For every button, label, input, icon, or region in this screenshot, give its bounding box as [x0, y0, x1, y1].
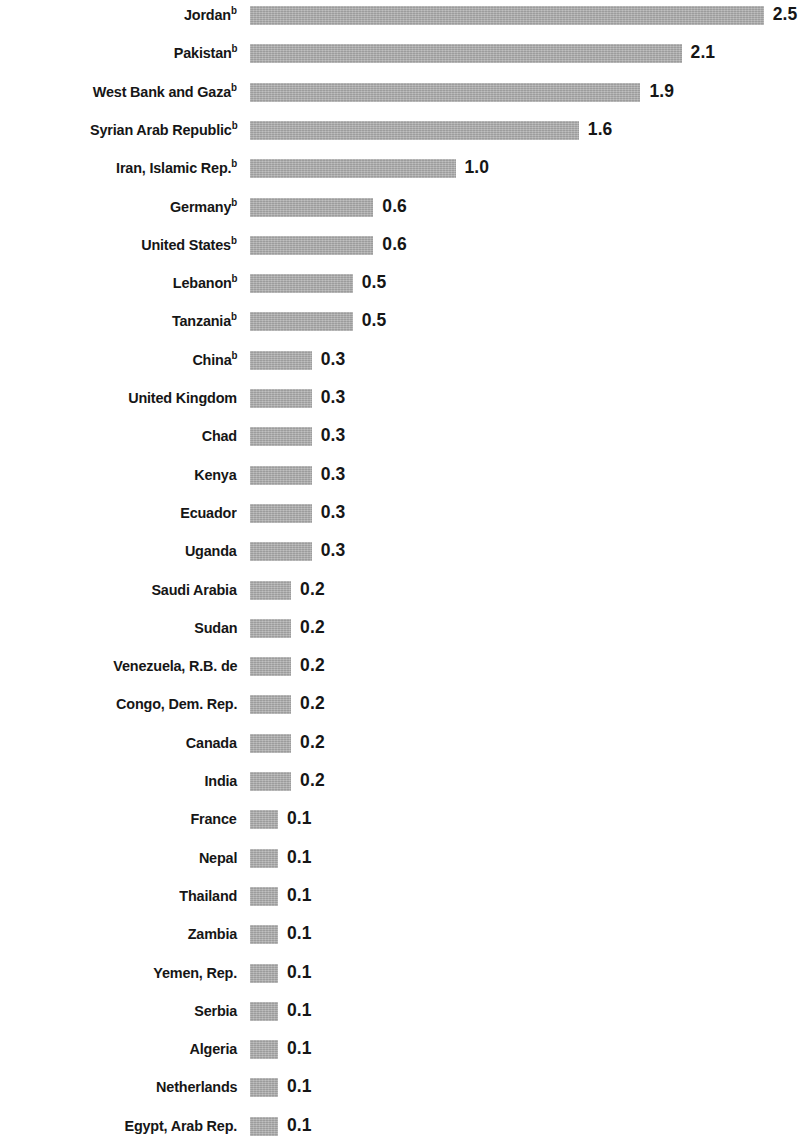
bar-chart-row: Thailand0.1 — [0, 883, 809, 921]
category-name: Thailand — [179, 887, 237, 904]
bar-value-label: 0.2 — [300, 615, 325, 641]
bar-value-label: 0.6 — [382, 232, 407, 258]
category-label: Uganda — [185, 538, 237, 564]
bar — [250, 734, 291, 753]
category-name: Sudan — [194, 619, 237, 636]
bar-chart-row: Sudan0.2 — [0, 615, 809, 653]
category-name: Congo, Dem. Rep. — [116, 695, 237, 712]
bar — [250, 849, 278, 868]
bar — [250, 504, 312, 523]
bar — [250, 427, 312, 446]
bar-value-label: 0.2 — [300, 730, 325, 756]
bar-value-label: 0.2 — [300, 577, 325, 603]
category-name: Lebanon — [172, 274, 231, 291]
bar-value-label: 2.5 — [773, 2, 798, 28]
category-label: Nepal — [199, 845, 237, 871]
category-name: China — [192, 351, 231, 368]
category-name: Canada — [186, 734, 237, 751]
category-label: Netherlands — [156, 1074, 237, 1100]
bar-value-label: 2.1 — [691, 40, 716, 66]
bar-chart-row: Chinab0.3 — [0, 347, 809, 385]
category-label: West Bank and Gazab — [93, 79, 237, 105]
bar-value-label: 0.2 — [300, 653, 325, 679]
bar — [250, 1002, 278, 1021]
bar-value-label: 0.1 — [287, 1113, 312, 1138]
category-name: Nepal — [199, 849, 237, 866]
footnote-marker: b — [231, 310, 237, 322]
category-label: Tanzaniab — [172, 308, 237, 334]
category-label: United Statesb — [142, 232, 237, 258]
bar-value-label: 0.5 — [362, 270, 387, 296]
bar-chart-row: United Kingdom0.3 — [0, 385, 809, 423]
bar-chart-row: Germanyb0.6 — [0, 194, 809, 232]
bar-value-label: 0.3 — [321, 462, 346, 488]
category-label: Egypt, Arab Rep. — [124, 1113, 237, 1138]
bar-value-label: 0.3 — [321, 385, 346, 411]
bar — [250, 619, 291, 638]
bar-value-label: 0.1 — [287, 921, 312, 947]
bar-chart-row: Nepal0.1 — [0, 845, 809, 883]
footnote-marker: b — [231, 195, 237, 207]
category-label: Lebanonb — [172, 270, 237, 296]
bar-value-label: 1.0 — [465, 155, 490, 181]
category-name: Serbia — [194, 1002, 237, 1019]
footnote-marker: b — [231, 4, 237, 16]
bar-chart-row: Tanzaniab0.5 — [0, 308, 809, 346]
bar — [250, 772, 291, 791]
bar-value-label: 0.3 — [321, 500, 346, 526]
bar-chart-row: West Bank and Gazab1.9 — [0, 79, 809, 117]
category-label: Serbia — [194, 998, 237, 1024]
category-name: Kenya — [195, 466, 237, 483]
bar-chart-row: Venezuela, R.B. de0.2 — [0, 653, 809, 691]
bar-value-label: 1.6 — [588, 117, 613, 143]
bar — [250, 925, 278, 944]
bar-value-label: 0.1 — [287, 1036, 312, 1062]
bar-value-label: 0.1 — [287, 883, 312, 909]
bar-chart-row: Chad0.3 — [0, 423, 809, 461]
category-name: United States — [142, 236, 232, 253]
bar-chart-row: Lebanonb0.5 — [0, 270, 809, 308]
footnote-marker: b — [231, 349, 237, 361]
category-name: West Bank and Gaza — [93, 83, 231, 100]
category-name: Tanzania — [172, 312, 231, 329]
bar-value-label: 0.1 — [287, 845, 312, 871]
footnote-marker: b — [231, 80, 237, 92]
footnote-marker: b — [231, 119, 237, 131]
bar — [250, 83, 640, 102]
bar — [250, 810, 278, 829]
bar-value-label: 0.3 — [321, 538, 346, 564]
bar — [250, 1078, 278, 1097]
bar — [250, 887, 278, 906]
bar-value-label: 1.9 — [649, 79, 674, 105]
bar-value-label: 0.5 — [362, 308, 387, 334]
footnote-marker: b — [231, 272, 237, 284]
footnote-marker: b — [231, 157, 237, 169]
bar-chart-row: France0.1 — [0, 806, 809, 844]
category-label: Pakistanb — [173, 40, 237, 66]
category-name: Chad — [202, 427, 237, 444]
category-name: Venezuela, R.B. de — [113, 657, 237, 674]
bar-chart-row: United Statesb0.6 — [0, 232, 809, 270]
bar-chart-row: Congo, Dem. Rep.0.2 — [0, 691, 809, 729]
bar — [250, 44, 682, 63]
category-label: Yemen, Rep. — [153, 960, 237, 986]
bar — [250, 351, 312, 370]
category-name: Algeria — [189, 1040, 237, 1057]
bar — [250, 159, 456, 178]
bar-chart-row: Ecuador0.3 — [0, 500, 809, 538]
category-label: Kenya — [195, 462, 237, 488]
bar — [250, 274, 353, 293]
bar-value-label: 0.2 — [300, 691, 325, 717]
category-label: France — [191, 806, 237, 832]
category-label: Ecuador — [181, 500, 237, 526]
bar-chart-row: Egypt, Arab Rep.0.1 — [0, 1113, 809, 1138]
bar-chart-row: Netherlands0.1 — [0, 1074, 809, 1112]
category-label: Chad — [202, 423, 237, 449]
bar-chart-row: Jordanb2.5 — [0, 2, 809, 40]
bar — [250, 236, 373, 255]
bar-chart-row: Pakistanb2.1 — [0, 40, 809, 78]
bar-chart-row: Uganda0.3 — [0, 538, 809, 576]
bar-value-label: 0.1 — [287, 806, 312, 832]
category-label: India — [204, 768, 237, 794]
category-name: Iran, Islamic Rep. — [116, 159, 231, 176]
